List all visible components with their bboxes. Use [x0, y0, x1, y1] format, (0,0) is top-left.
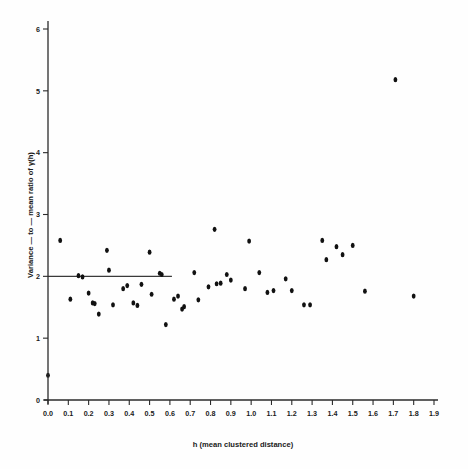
data-point: [266, 290, 270, 295]
data-point: [247, 238, 251, 243]
x-axis-title: h (mean clustered distance): [193, 440, 294, 449]
x-axis-tick-label: 0.3: [104, 409, 114, 418]
y-axis-title: Variance — to — mean ratio of γ(h): [26, 152, 35, 278]
data-point: [257, 270, 261, 275]
data-point: [335, 244, 339, 249]
x-axis-tick-label: 1.7: [388, 409, 398, 418]
data-point: [176, 294, 180, 299]
data-point: [196, 297, 200, 302]
data-point: [135, 303, 139, 308]
data-point: [225, 272, 229, 277]
data-point: [412, 294, 416, 299]
data-point: [351, 243, 355, 248]
data-point: [140, 282, 144, 287]
y-axis-tick-label: 5: [36, 87, 40, 96]
x-axis-tick-label: 1.9: [429, 409, 439, 418]
data-point: [121, 286, 125, 291]
y-axis-tick-label: 3: [36, 210, 40, 219]
data-point: [182, 304, 186, 309]
data-point: [81, 274, 85, 279]
scatter-plot-figure: 0.00.10.20.30.40.50.60.70.80.91.01.11.21…: [0, 0, 468, 469]
data-point: [148, 250, 152, 255]
data-point: [324, 257, 328, 262]
data-point: [341, 252, 345, 257]
y-axis-tick-label: 0: [36, 396, 40, 405]
data-point: [93, 301, 97, 306]
data-point: [320, 238, 324, 243]
x-axis-tick-label: 1.1: [266, 409, 276, 418]
data-point: [164, 322, 168, 327]
x-axis-tick-label: 0.6: [165, 409, 175, 418]
y-axis-group: 0123456: [36, 21, 48, 405]
x-axis-tick-label: 0.0: [43, 409, 53, 418]
x-axis-tick-label: 1.4: [327, 409, 337, 418]
data-point: [284, 276, 288, 281]
data-point: [68, 297, 72, 302]
data-point: [111, 302, 115, 307]
data-point: [131, 300, 135, 305]
data-point: [172, 297, 176, 302]
plot-canvas: 0.00.10.20.30.40.50.60.70.80.91.01.11.21…: [0, 0, 468, 469]
x-axis-group: 0.00.10.20.30.40.50.60.70.80.91.01.11.21…: [43, 400, 439, 418]
data-point: [87, 290, 91, 295]
data-point: [229, 277, 233, 282]
x-axis-tick-label: 1.6: [368, 409, 378, 418]
data-point: [125, 283, 129, 288]
x-axis-tick-label: 1.5: [348, 409, 358, 418]
data-point: [207, 284, 211, 289]
data-point: [363, 289, 367, 294]
x-axis-tick-label: 0.7: [185, 409, 195, 418]
x-axis-tick-label: 0.4: [124, 409, 134, 418]
y-axis-tick-label: 4: [36, 148, 40, 157]
data-point: [290, 288, 294, 293]
data-point: [160, 272, 164, 277]
data-point: [272, 288, 276, 293]
data-points-group: [46, 77, 415, 378]
data-point: [308, 302, 312, 307]
data-point: [97, 311, 101, 316]
data-point: [150, 292, 154, 297]
x-axis-tick-label: 0.8: [206, 409, 216, 418]
x-axis-tick-label: 1.2: [287, 409, 297, 418]
y-axis-tick-label: 6: [36, 25, 40, 34]
data-point: [192, 270, 196, 275]
x-axis-tick-label: 0.1: [63, 409, 73, 418]
y-axis-tick-label: 2: [36, 272, 40, 281]
data-point: [58, 238, 62, 243]
data-point: [107, 268, 111, 273]
data-point: [219, 281, 223, 286]
x-axis-tick-label: 1.0: [246, 409, 256, 418]
data-point: [213, 227, 217, 232]
x-axis-tick-label: 0.2: [84, 409, 94, 418]
x-axis-tick-label: 0.5: [145, 409, 155, 418]
data-point: [77, 273, 81, 278]
x-axis-tick-label: 1.3: [307, 409, 317, 418]
data-point: [243, 286, 247, 291]
x-axis-tick-label: 1.8: [409, 409, 419, 418]
data-point: [302, 302, 306, 307]
data-point: [215, 281, 219, 286]
x-axis-tick-label: 0.9: [226, 409, 236, 418]
y-axis-tick-label: 1: [36, 334, 40, 343]
data-point: [105, 248, 109, 253]
data-point: [394, 77, 398, 82]
